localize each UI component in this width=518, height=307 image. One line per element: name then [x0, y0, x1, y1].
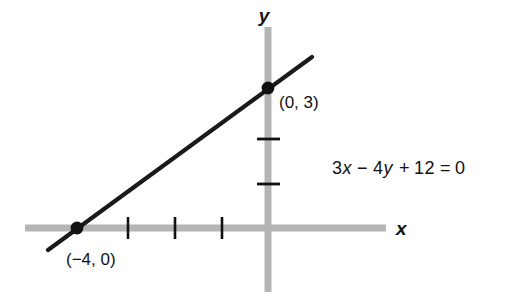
line-graph-figure: y x (0, 3) (−4, 0) 3x−4y+12=0 [0, 0, 518, 307]
graph-canvas: y x (0, 3) (−4, 0) 3x−4y+12=0 [0, 0, 518, 307]
equation-coefficient-a: 3 [332, 158, 343, 178]
point-y-intercept [262, 82, 275, 95]
equation-annotation: 3x−4y+12=0 [332, 158, 466, 178]
equation-minus-sign: − [357, 158, 368, 178]
y-axis-label: y [258, 5, 271, 26]
equation-equals-sign: = [440, 158, 451, 178]
equation-variable-y: y [382, 158, 394, 178]
x-axis-label: x [395, 218, 408, 239]
y-intercept-label: (0, 3) [279, 93, 319, 112]
equation-coefficient-b: 4 [373, 158, 384, 178]
equation-constant: 12 [414, 158, 435, 178]
point-x-intercept [71, 222, 84, 235]
equation-variable-x: x [342, 158, 353, 178]
equation-plus-sign: + [399, 158, 410, 178]
equation-right-side: 0 [455, 158, 466, 178]
x-intercept-label: (−4, 0) [66, 250, 116, 269]
